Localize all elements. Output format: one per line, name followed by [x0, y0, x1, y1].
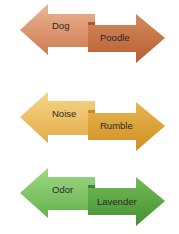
double-arrow-icon: [0, 88, 179, 158]
right-label: Rumble: [100, 120, 133, 131]
left-label: Noise: [52, 108, 76, 119]
left-label: Odor: [52, 184, 73, 195]
arrow-pair-noise-rumble: Noise Rumble: [0, 88, 179, 158]
right-label: Poodle: [100, 32, 130, 43]
arrow-pair-odor-lavender: Odor Lavender: [0, 164, 179, 234]
double-arrow-icon: [0, 0, 179, 70]
left-label: Dog: [52, 20, 69, 31]
right-label: Lavender: [97, 196, 137, 207]
arrow-pair-dog-poodle: Dog Poodle: [0, 0, 179, 70]
double-arrow-icon: [0, 164, 179, 234]
